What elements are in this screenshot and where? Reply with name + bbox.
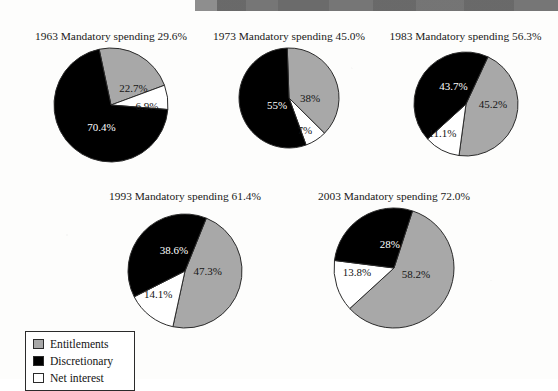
legend-label-discretionary: Discretionary bbox=[50, 355, 113, 368]
discretionary-swatch-icon bbox=[33, 356, 44, 366]
pie-slice-label-1963-entitlements: 22.7% bbox=[119, 82, 147, 94]
pie-slice-label-1973-entitlements: 38% bbox=[300, 92, 320, 104]
pie-graphic-1983: 45.2%11.1%43.7% bbox=[412, 50, 520, 158]
pie-slice-label-1973-net-interest: 7% bbox=[298, 124, 313, 136]
pie-graphic-1973: 38%7%55% bbox=[237, 46, 341, 150]
pie-slice-label-1963-net-interest: 6.9% bbox=[135, 100, 158, 112]
legend-item-entitlements: Entitlements bbox=[33, 336, 134, 352]
pie-slice-label-1983-entitlements: 45.2% bbox=[478, 98, 506, 110]
pie-title-1973: 1973 Mandatory spending 45.0% bbox=[196, 30, 382, 42]
pie-graphic-2003: 58.2%13.8%28% bbox=[332, 206, 456, 330]
net-interest-swatch-icon bbox=[33, 373, 44, 383]
entitlements-swatch-icon bbox=[33, 339, 44, 349]
pie-graphic-1993: 47.3%14.1%38.6% bbox=[126, 212, 244, 330]
legend-item-net-interest: Net interest bbox=[33, 370, 134, 386]
pie-slice-label-2003-net-interest: 13.8% bbox=[343, 266, 371, 278]
pie-slice-label-1993-discretionary: 38.6% bbox=[160, 244, 188, 256]
scan-header-bar bbox=[195, 0, 558, 11]
pie-graphic-1963: 22.7%6.9%70.4% bbox=[52, 46, 170, 164]
pie-slice-label-1983-net-interest: 11.1% bbox=[428, 127, 456, 139]
pie-title-1993: 1993 Mandatory spending 61.4% bbox=[95, 190, 275, 202]
chart-legend: Entitlements Discretionary Net interest bbox=[25, 331, 135, 391]
pie-slice-label-1983-discretionary: 43.7% bbox=[439, 80, 467, 92]
scan-header-bar-text bbox=[195, 0, 558, 10]
legend-label-entitlements: Entitlements bbox=[50, 338, 109, 351]
pie-slice-label-1963-discretionary: 70.4% bbox=[87, 121, 115, 133]
legend-label-net-interest: Net interest bbox=[50, 372, 104, 385]
pie-slice-label-1993-net-interest: 14.1% bbox=[144, 288, 172, 300]
pie-title-1963: 1963 Mandatory spending 29.6% bbox=[8, 30, 214, 42]
pie-slice-label-1993-entitlements: 47.3% bbox=[194, 265, 222, 277]
legend-item-discretionary: Discretionary bbox=[33, 353, 134, 369]
pie-slice-label-2003-entitlements: 58.2% bbox=[402, 268, 430, 280]
pie-slice-label-1973-discretionary: 55% bbox=[267, 99, 287, 111]
pie-title-1983: 1983 Mandatory spending 56.3% bbox=[373, 30, 558, 42]
pie-slice-label-2003-discretionary: 28% bbox=[380, 238, 400, 250]
pie-title-2003: 2003 Mandatory spending 72.0% bbox=[290, 190, 498, 202]
